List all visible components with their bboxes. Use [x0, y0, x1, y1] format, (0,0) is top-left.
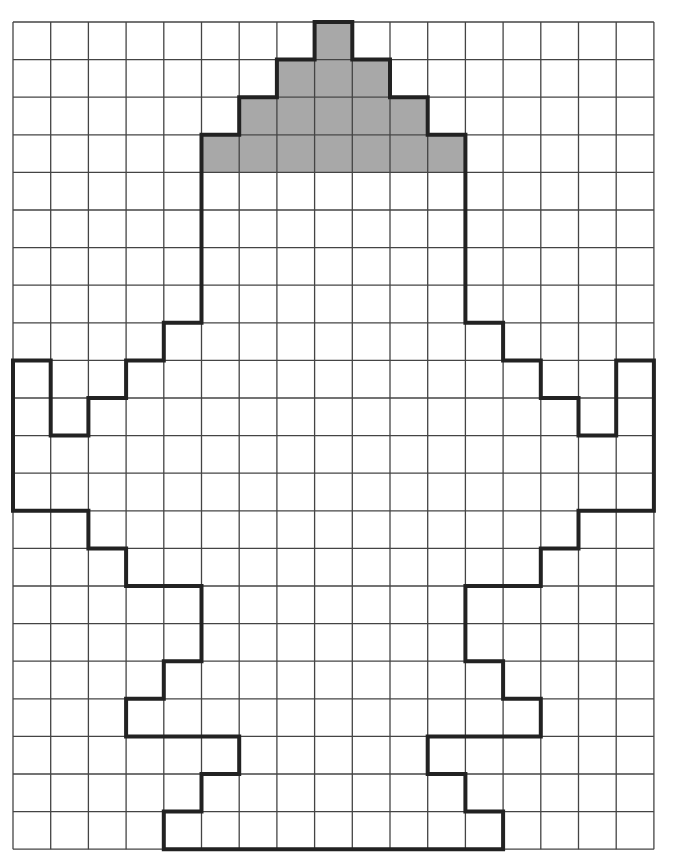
shaded-row: [315, 22, 353, 60]
shaded-row: [239, 97, 428, 135]
grid-figure: [0, 0, 674, 861]
shaded-row: [202, 135, 466, 173]
shaded-row: [277, 60, 390, 98]
